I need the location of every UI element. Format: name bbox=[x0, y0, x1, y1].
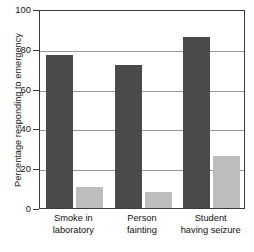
gridline bbox=[40, 51, 244, 52]
bar-light-0 bbox=[76, 187, 103, 208]
x-axis-label-line: having seizure bbox=[170, 225, 251, 237]
y-tick-label: 80 bbox=[0, 45, 31, 54]
bar-dark-1 bbox=[115, 65, 142, 208]
bar-dark-2 bbox=[183, 37, 210, 208]
y-tick-mark bbox=[33, 209, 39, 210]
x-axis-label-2: Studenthaving seizure bbox=[170, 213, 251, 236]
y-axis-title: Percentage responding to emergency bbox=[13, 5, 23, 215]
plot-area bbox=[39, 10, 245, 209]
bar-dark-0 bbox=[46, 55, 73, 208]
bar-chart: Percentage responding to emergency 02040… bbox=[0, 0, 254, 252]
bar-light-1 bbox=[145, 192, 172, 208]
x-axis-label-line: Student bbox=[170, 213, 251, 225]
x-axis-labels: Smoke inlaboratoryPersonfaintingStudenth… bbox=[39, 213, 245, 251]
y-tick-label: 0 bbox=[0, 204, 31, 213]
y-tick-label: 20 bbox=[0, 164, 31, 173]
bar-light-2 bbox=[213, 156, 240, 208]
y-tick-label: 40 bbox=[0, 124, 31, 133]
y-tick-label: 60 bbox=[0, 85, 31, 94]
y-tick-label: 100 bbox=[0, 5, 31, 14]
